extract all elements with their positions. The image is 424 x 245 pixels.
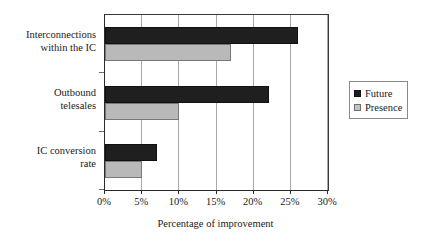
legend-item-future: Future bbox=[354, 86, 402, 100]
legend-label-future: Future bbox=[365, 88, 392, 99]
x-tick-10% bbox=[178, 190, 179, 194]
y-tick-1 bbox=[99, 72, 104, 73]
x-tick-label-15%: 15% bbox=[196, 196, 236, 207]
y-axis-label-2-line-1: rate bbox=[0, 157, 96, 170]
legend-swatch-future-icon bbox=[354, 90, 361, 97]
bar-presence-0 bbox=[105, 44, 231, 61]
x-tick-20% bbox=[253, 190, 254, 194]
x-tick-label-5%: 5% bbox=[121, 196, 161, 207]
x-tick-15% bbox=[216, 190, 217, 194]
y-axis-label-2: IC conversion rate bbox=[0, 144, 96, 170]
chart-container: Interconnections within the IC Outbound … bbox=[0, 0, 424, 245]
legend-swatch-presence-icon bbox=[354, 104, 361, 111]
y-tick-3 bbox=[99, 189, 104, 190]
x-tick-label-10%: 10% bbox=[158, 196, 198, 207]
legend-label-presence: Presence bbox=[365, 102, 402, 113]
x-tick-30% bbox=[327, 190, 328, 194]
bar-presence-2 bbox=[105, 161, 142, 178]
y-axis-label-2-line-0: IC conversion bbox=[0, 144, 96, 157]
y-axis-label-0-line-1: within the IC bbox=[0, 41, 96, 54]
bar-future-1 bbox=[105, 86, 269, 103]
gridline-30% bbox=[327, 15, 328, 190]
x-tick-label-0%: 0% bbox=[84, 196, 124, 207]
y-axis-label-1: Outbound telesales bbox=[0, 86, 96, 112]
x-axis-title: Percentage of improvement bbox=[104, 218, 327, 229]
bar-future-2 bbox=[105, 144, 157, 161]
x-tick-label-30%: 30% bbox=[307, 196, 347, 207]
y-axis-label-1-line-0: Outbound bbox=[0, 86, 96, 99]
y-axis-line bbox=[104, 14, 105, 190]
x-tick-label-25%: 25% bbox=[270, 196, 310, 207]
legend: Future Presence bbox=[349, 81, 408, 119]
x-tick-25% bbox=[290, 190, 291, 194]
x-tick-5% bbox=[141, 190, 142, 194]
y-axis-label-0-line-0: Interconnections bbox=[0, 28, 96, 41]
y-axis-category-labels: Interconnections within the IC Outbound … bbox=[0, 14, 100, 189]
y-tick-2 bbox=[99, 131, 104, 132]
bar-presence-1 bbox=[105, 103, 179, 120]
legend-item-presence: Presence bbox=[354, 100, 402, 114]
bars-layer bbox=[105, 15, 327, 189]
bar-future-0 bbox=[105, 27, 298, 44]
y-axis-label-0: Interconnections within the IC bbox=[0, 28, 96, 54]
x-tick-0% bbox=[104, 190, 105, 194]
y-axis-label-1-line-1: telesales bbox=[0, 99, 96, 112]
x-tick-label-20%: 20% bbox=[233, 196, 273, 207]
